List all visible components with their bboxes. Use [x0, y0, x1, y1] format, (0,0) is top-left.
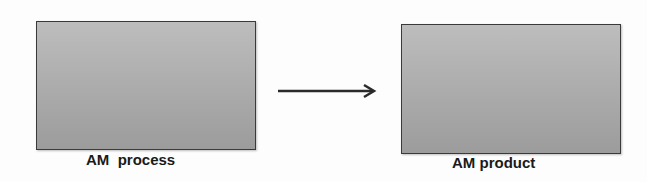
arrow-right-icon [276, 82, 380, 100]
am-process-box [36, 21, 256, 150]
am-process-label: AM process [86, 151, 175, 168]
am-product-label: AM product [452, 154, 535, 171]
am-product-box [401, 24, 621, 154]
